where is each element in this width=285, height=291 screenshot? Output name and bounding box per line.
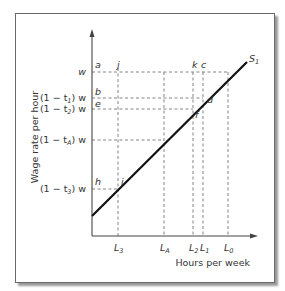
x-tick-L3: L3 — [114, 242, 123, 255]
point-label-k: k — [192, 59, 198, 70]
y-tick-w: w — [78, 66, 86, 77]
point-label-a: a — [95, 59, 101, 70]
point-label-h: h — [95, 176, 101, 187]
supply-curve-s1 — [92, 62, 247, 216]
point-label-d: d — [207, 94, 214, 105]
x-tick-LA: LA — [160, 242, 170, 255]
y-tick-t2: (1 − t2) w — [40, 103, 86, 116]
x-axis-title: Hours per week — [175, 257, 250, 268]
point-label-i: i — [121, 176, 124, 187]
point-label-j: j — [115, 59, 120, 70]
y-axis-title: Wage rate per hour — [29, 91, 40, 183]
labor-supply-diagram: S1 w (1 − t1) w (1 − t2) w (1 − tA) w (1… — [0, 0, 285, 291]
y-tick-tA: (1 − tA) w — [40, 134, 87, 147]
curve-label: S1 — [249, 53, 259, 66]
y-tick-t3: (1 − t3) w — [40, 183, 86, 196]
point-label-c: c — [201, 59, 207, 70]
x-tick-L1: L1 — [200, 242, 209, 255]
x-tick-L2: L2 — [189, 242, 198, 255]
point-label-b: b — [95, 86, 101, 97]
point-label-e: e — [95, 98, 101, 109]
x-tick-L0: L0 — [224, 242, 233, 255]
x-axis-arrow-icon — [250, 234, 258, 239]
y-axis-arrow-icon — [90, 29, 95, 37]
